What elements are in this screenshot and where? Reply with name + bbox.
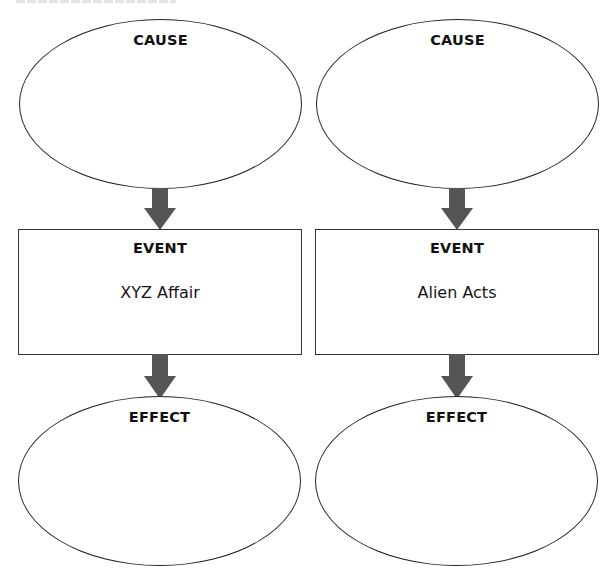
event-box-left: EVENT XYZ Affair (18, 229, 302, 355)
cause-ellipse-right: CAUSE (316, 19, 599, 189)
effect-heading: EFFECT (19, 409, 300, 425)
down-arrow-icon (143, 188, 177, 232)
down-arrow-icon (143, 354, 177, 400)
event-box-right: EVENT Alien Acts (315, 229, 599, 355)
effect-heading: EFFECT (316, 409, 597, 425)
effect-ellipse-right: EFFECT (315, 396, 598, 566)
event-text: Alien Acts (316, 283, 598, 302)
effect-ellipse-left: EFFECT (18, 396, 301, 566)
down-arrow-icon (440, 354, 474, 400)
cause-ellipse-left: CAUSE (19, 19, 302, 189)
event-text: XYZ Affair (19, 283, 301, 302)
event-heading: EVENT (316, 240, 598, 256)
down-arrow-icon (440, 188, 474, 232)
cause-heading: CAUSE (20, 32, 301, 48)
event-heading: EVENT (19, 240, 301, 256)
cause-heading: CAUSE (317, 32, 598, 48)
clipped-header-fragment (16, 0, 176, 3)
